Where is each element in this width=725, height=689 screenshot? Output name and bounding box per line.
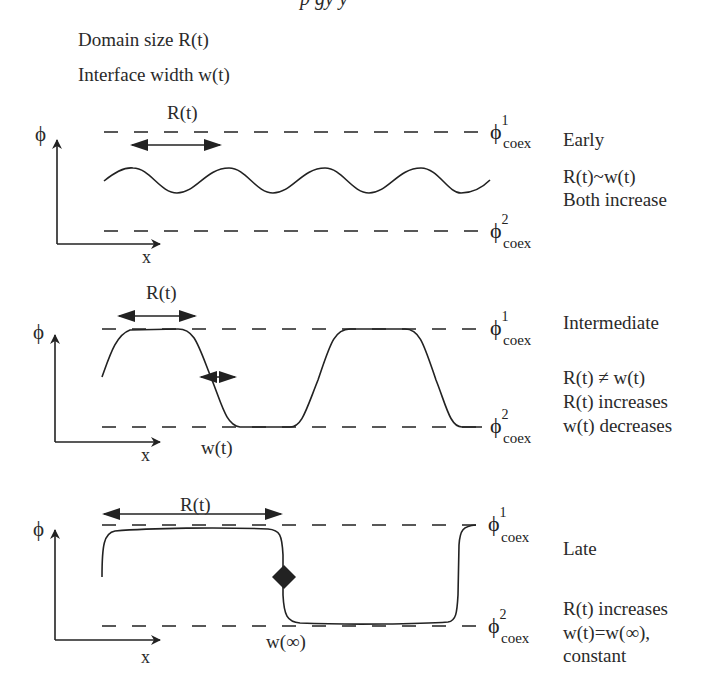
x-axis-label-early: x bbox=[142, 248, 151, 266]
domain-size-label-early: R(t) bbox=[167, 103, 198, 122]
phase-separation-diagram bbox=[0, 0, 725, 689]
note-intermediate-2: R(t) increases bbox=[563, 392, 668, 411]
interface-width-marker-late bbox=[272, 565, 296, 589]
panel-intermediate bbox=[55, 316, 488, 442]
axes-late bbox=[55, 530, 160, 640]
note-early-2: Both increase bbox=[563, 190, 667, 209]
y-axis-label-early: ϕ bbox=[35, 124, 46, 145]
interface-width-label-intermediate: w(t) bbox=[201, 438, 233, 457]
domain-size-label-intermediate: R(t) bbox=[146, 283, 177, 302]
y-axis-label-late: ϕ bbox=[33, 519, 44, 540]
stage-label-late: Late bbox=[563, 539, 597, 558]
note-late-2: w(t)=w(∞), bbox=[563, 623, 650, 642]
panel-early bbox=[57, 132, 490, 244]
x-axis-label-late: x bbox=[141, 648, 150, 666]
note-late-1: R(t) increases bbox=[563, 599, 668, 618]
x-axis-label-intermediate: x bbox=[141, 446, 150, 464]
legend-domain-size: Domain size R(t) bbox=[78, 30, 209, 49]
coex2-subscript-intermediate: coex bbox=[503, 431, 531, 446]
axes-early bbox=[57, 140, 160, 244]
coex1-subscript-intermediate: coex bbox=[503, 333, 531, 348]
note-intermediate-1: R(t) ≠ w(t) bbox=[563, 368, 645, 387]
note-intermediate-3: w(t) decreases bbox=[563, 416, 672, 435]
cutoff-heading-fragment: p gy y bbox=[300, 0, 348, 8]
interface-width-label-late: w(∞) bbox=[266, 632, 306, 651]
order-parameter-curve-intermediate bbox=[102, 329, 482, 427]
coex1-subscript-late: coex bbox=[501, 530, 529, 545]
coex2-subscript-early: coex bbox=[503, 236, 531, 251]
note-late-3: constant bbox=[563, 646, 626, 665]
domain-size-label-late: R(t) bbox=[180, 495, 211, 514]
stage-label-intermediate: Intermediate bbox=[563, 313, 659, 332]
stage-label-early: Early bbox=[563, 130, 604, 149]
y-axis-label-intermediate: ϕ bbox=[33, 322, 44, 343]
coex1-subscript-early: coex bbox=[503, 136, 531, 151]
order-parameter-curve-early bbox=[104, 168, 490, 193]
coex2-subscript-late: coex bbox=[501, 631, 529, 646]
note-early-1: R(t)~w(t) bbox=[563, 167, 636, 186]
legend-interface-width: Interface width w(t) bbox=[78, 65, 230, 84]
axes-intermediate bbox=[55, 335, 160, 442]
panel-late bbox=[55, 514, 488, 640]
